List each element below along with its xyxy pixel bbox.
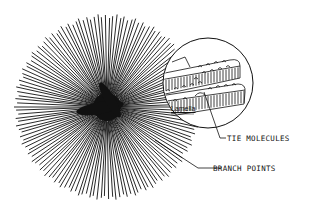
lamellae-inset [160,38,253,128]
tie-molecules-label: TIE MOLECULES [227,134,290,143]
branch-points-label: BRANCH POINTS [213,164,276,173]
spherulite-diagram [0,0,310,211]
lamella-label: Lamella [171,105,196,112]
